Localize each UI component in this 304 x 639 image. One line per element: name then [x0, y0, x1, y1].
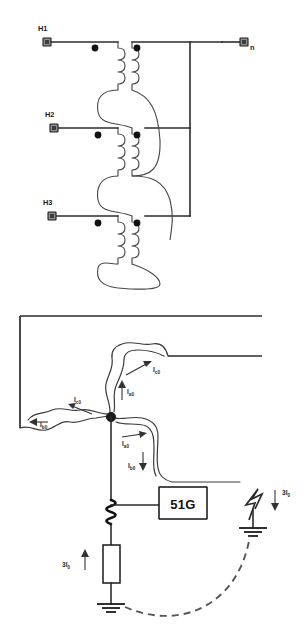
- h2-primary-polarity-dot: [95, 132, 102, 139]
- terminal-h3[interactable]: H3: [43, 198, 56, 220]
- residual-fault-arrow-head: [271, 503, 279, 511]
- ic0-down-arrow-head: [139, 463, 147, 471]
- fault-arrow-icon: [246, 489, 262, 520]
- n-terminal-label: n: [250, 43, 255, 52]
- relay-51g-label: 51G: [170, 497, 195, 512]
- residual-current-neutral: 3I0: [62, 549, 89, 570]
- ic0-label: Ic0: [153, 366, 160, 375]
- ia0-arrow-head: [118, 380, 126, 388]
- ct-coil-winding: [107, 500, 116, 524]
- current-arrow-ia0-up: Ia0: [118, 380, 134, 400]
- ia0-label: Ia0: [127, 388, 134, 397]
- phase-h2-group: [54, 128, 190, 176]
- h3-terminal-pad-core: [50, 214, 54, 218]
- h2-primary-coil: [118, 128, 125, 176]
- n-terminal-pad-core: [242, 40, 246, 44]
- crossover-wire-4: [98, 263, 160, 289]
- ground-fault-indicator: [239, 489, 267, 536]
- current-transformer: [107, 500, 116, 545]
- terminal-h2[interactable]: H2: [45, 110, 58, 132]
- ia0-right-arrow-head: [139, 431, 147, 438]
- relay-51g[interactable]: 51G: [159, 487, 207, 519]
- residual-fault-label: 3I0: [282, 489, 291, 498]
- crossover-wire-1: [98, 90, 132, 128]
- phase-h1-group: [47, 42, 244, 90]
- h1-secondary-polarity-dot: [134, 45, 141, 52]
- ic0-arrow-head: [143, 361, 152, 367]
- h1-primary-coil: [118, 42, 125, 90]
- phase-c-conductor: [114, 417, 240, 482]
- protection-section: 51G: [20, 316, 291, 616]
- h1-terminal-pad-core: [45, 40, 49, 44]
- current-arrow-ic0: Ic0: [126, 361, 160, 375]
- residual-neutral-arrow-head: [81, 549, 89, 557]
- residual-neutral-label: 3I0: [62, 561, 71, 570]
- phase-c-conductor-alt: [116, 422, 156, 476]
- phase-h3-group: [52, 216, 190, 264]
- transformer-section: H1 H2 H3 n: [38, 24, 255, 289]
- h1-primary-polarity-dot: [92, 45, 99, 52]
- h3-secondary-polarity-dot: [134, 220, 141, 227]
- diagram-canvas: H1 H2 H3 n: [0, 0, 304, 639]
- h1-terminal-label: H1: [38, 24, 47, 33]
- current-arrow-ic0-down: Ib0: [128, 452, 147, 471]
- current-arrow-ic0-left: Ic0: [68, 396, 92, 414]
- h2-secondary-polarity-dot: [134, 132, 141, 139]
- ib0-arrow-head: [29, 418, 37, 426]
- current-arrow-ia0-right: Ia0: [122, 431, 147, 449]
- ia0-right-label: Ia0: [122, 440, 129, 449]
- crossover-wire-3: [98, 176, 132, 216]
- h3-primary-polarity-dot: [95, 220, 102, 227]
- h2-terminal-label: H2: [45, 110, 54, 119]
- terminal-h1[interactable]: H1: [38, 24, 51, 46]
- h3-primary-coil: [118, 216, 125, 264]
- residual-current-fault: 3I0: [271, 489, 291, 511]
- h2-terminal-pad-core: [52, 126, 56, 130]
- ia0-right-arrow-line: [122, 434, 142, 437]
- grounding-resistor: [103, 545, 120, 583]
- ic0-left-label: Ic0: [74, 396, 81, 405]
- terminal-n[interactable]: n: [240, 38, 255, 52]
- ic0-arrow-line: [126, 363, 148, 375]
- ground-neutral-symbol: [97, 604, 125, 612]
- dashed-ground-return-path: [125, 536, 250, 616]
- ic0-down-label: Ib0: [128, 462, 136, 471]
- ic0-left-arrow-head: [68, 403, 76, 409]
- diagram-root: H1 H2 H3 n: [0, 0, 304, 639]
- h3-terminal-label: H3: [43, 198, 52, 207]
